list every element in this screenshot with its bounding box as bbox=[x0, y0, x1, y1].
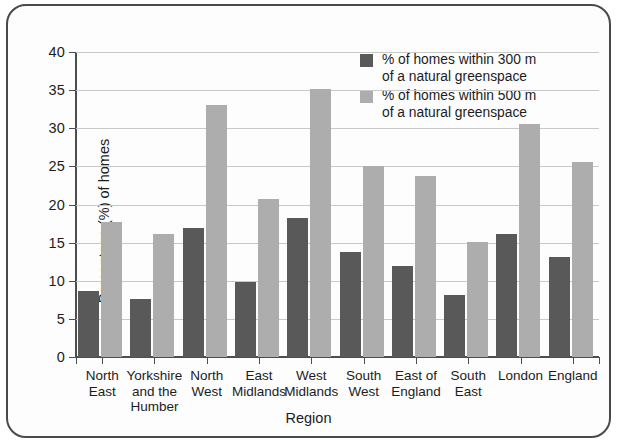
x-axis-tick bbox=[207, 357, 208, 364]
y-axis-tick-label: 30 bbox=[48, 120, 65, 136]
bar bbox=[496, 234, 517, 357]
bar bbox=[287, 218, 308, 357]
bar-group: England bbox=[547, 52, 599, 357]
y-axis-tick bbox=[69, 90, 76, 91]
y-axis-tick bbox=[69, 357, 76, 358]
x-axis-tick bbox=[573, 357, 574, 364]
x-axis-tick-label: England bbox=[536, 368, 610, 384]
y-axis-tick bbox=[69, 128, 76, 129]
y-axis-tick bbox=[69, 166, 76, 167]
x-axis-tick bbox=[364, 357, 365, 364]
bars-layer: North EastYorkshire and the HumberNorth … bbox=[76, 52, 599, 357]
bar bbox=[101, 222, 122, 357]
x-axis-tick bbox=[311, 357, 312, 364]
y-axis-tick-label: 5 bbox=[57, 311, 65, 327]
y-axis-tick-label: 35 bbox=[48, 82, 65, 98]
chart-frame: Percentage (%) of homes % of homes withi… bbox=[6, 4, 611, 438]
bar bbox=[235, 282, 256, 357]
bar-group: North East bbox=[76, 52, 128, 357]
bar bbox=[206, 105, 227, 357]
bar bbox=[153, 234, 174, 357]
bar-group: London bbox=[494, 52, 546, 357]
bar bbox=[340, 252, 361, 357]
y-axis-tick bbox=[69, 243, 76, 244]
y-axis-tick bbox=[69, 319, 76, 320]
bar bbox=[415, 176, 436, 357]
y-axis-tick bbox=[69, 281, 76, 282]
bar-group: South East bbox=[442, 52, 494, 357]
x-axis-tick bbox=[76, 357, 77, 364]
bar bbox=[363, 166, 384, 357]
bar bbox=[519, 124, 540, 357]
bar bbox=[572, 162, 593, 357]
y-axis-tick-label: 0 bbox=[57, 349, 65, 365]
bar bbox=[78, 291, 99, 357]
bar bbox=[444, 295, 465, 357]
bar bbox=[130, 299, 151, 357]
bar-group: North West bbox=[181, 52, 233, 357]
x-axis-tick bbox=[259, 357, 260, 364]
bar bbox=[392, 266, 413, 357]
bar-group: East Midlands bbox=[233, 52, 285, 357]
y-axis-tick-label: 25 bbox=[48, 158, 65, 174]
bar-group: Yorkshire and the Humber bbox=[128, 52, 180, 357]
y-axis-tick-label: 15 bbox=[48, 235, 65, 251]
bar-group: West Midlands bbox=[285, 52, 337, 357]
bar bbox=[183, 228, 204, 357]
plot-area: 0510152025303540 North EastYorkshire and… bbox=[76, 52, 599, 357]
x-axis-title: Region bbox=[8, 410, 609, 426]
x-axis-tick bbox=[521, 357, 522, 364]
x-axis-tick bbox=[102, 357, 103, 364]
bar bbox=[310, 89, 331, 357]
bar-group: East of England bbox=[390, 52, 442, 357]
x-axis-tick bbox=[468, 357, 469, 364]
y-axis-tick-label: 40 bbox=[48, 44, 65, 60]
bar bbox=[467, 242, 488, 357]
x-axis-tick bbox=[154, 357, 155, 364]
y-axis-tick bbox=[69, 52, 76, 53]
x-axis-tick bbox=[599, 357, 600, 364]
y-axis-tick-label: 20 bbox=[48, 197, 65, 213]
y-axis-tick-label: 10 bbox=[48, 273, 65, 289]
bar bbox=[258, 199, 279, 357]
x-axis-tick bbox=[416, 357, 417, 364]
bar-group: South West bbox=[338, 52, 390, 357]
bar bbox=[549, 257, 570, 357]
y-axis-tick bbox=[69, 205, 76, 206]
